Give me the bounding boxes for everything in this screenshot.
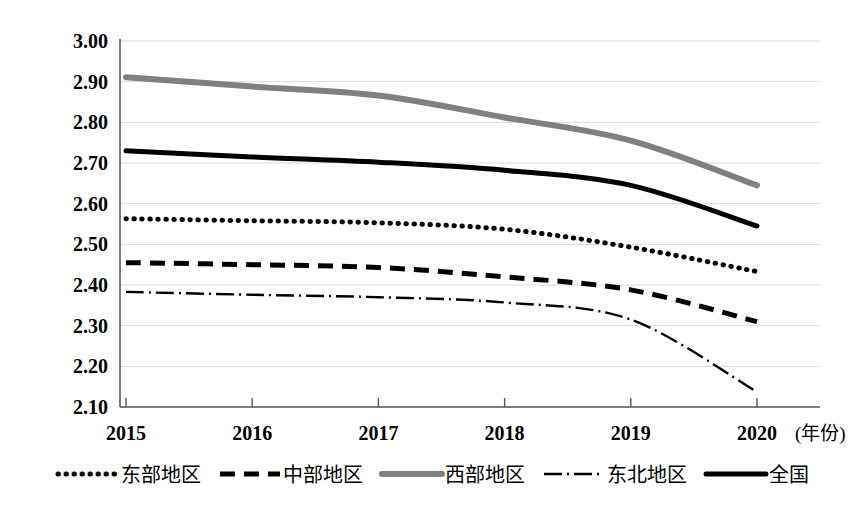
chart-canvas: 3.002.902.802.702.602.502.402.302.202.10… <box>0 0 864 510</box>
legend-label-东北地区: 东北地区 <box>607 464 687 486</box>
legend-label-东部地区: 东部地区 <box>121 464 201 486</box>
x-axis-tick-labels: 201520162017201820192020(年份) <box>106 422 846 445</box>
y-axis-tick-label: 2.30 <box>73 315 108 337</box>
x-axis-tick-label: 2016 <box>232 422 272 444</box>
series-line-中部地区 <box>126 263 757 322</box>
legend-label-全国: 全国 <box>769 464 809 486</box>
x-axis-tick-label: 2015 <box>106 422 146 444</box>
legend-label-中部地区: 中部地区 <box>283 464 363 486</box>
y-axis-tick-label: 3.00 <box>73 30 108 52</box>
series-line-西部地区 <box>126 77 757 185</box>
legend-item[interactable]: 全国 <box>706 464 809 486</box>
data-series <box>126 77 757 392</box>
y-axis-tick-label: 2.20 <box>73 355 108 377</box>
legend-item[interactable]: 东北地区 <box>544 464 687 486</box>
y-axis-tick-label: 2.50 <box>73 233 108 255</box>
legend-item[interactable]: 西部地区 <box>382 464 525 486</box>
x-axis-unit-label: (年份) <box>795 423 846 445</box>
line-chart: 3.002.902.802.702.602.502.402.302.202.10… <box>0 0 864 510</box>
x-axis-tick-label: 2019 <box>611 422 651 444</box>
gridlines <box>120 41 820 407</box>
x-axis-tick-label: 2020 <box>737 422 777 444</box>
y-axis-tick-label: 2.40 <box>73 274 108 296</box>
series-line-东部地区 <box>126 219 757 272</box>
x-axis-tick-marks <box>126 398 757 407</box>
axes <box>120 39 820 407</box>
y-axis-tick-labels: 3.002.902.802.702.602.502.402.302.202.10 <box>73 30 108 418</box>
x-axis-tick-label: 2018 <box>485 422 525 444</box>
y-axis-tick-label: 2.70 <box>73 152 108 174</box>
series-line-全国 <box>126 151 757 226</box>
legend-item[interactable]: 东部地区 <box>58 464 201 486</box>
legend-label-西部地区: 西部地区 <box>445 464 525 486</box>
y-axis-tick-label: 2.90 <box>73 71 108 93</box>
x-axis-tick-label: 2017 <box>358 422 398 444</box>
chart-legend: 东部地区中部地区西部地区东北地区全国 <box>58 464 809 486</box>
series-line-东北地区 <box>126 292 757 392</box>
y-axis-tick-label: 2.60 <box>73 193 108 215</box>
y-axis-tick-label: 2.80 <box>73 111 108 133</box>
legend-item[interactable]: 中部地区 <box>220 464 363 486</box>
y-axis-tick-label: 2.10 <box>73 396 108 418</box>
